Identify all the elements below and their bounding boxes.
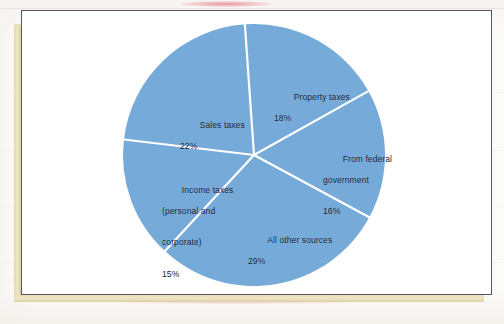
slice-label-percent: 22% <box>180 141 245 152</box>
slice-label-text: Income taxes <box>182 185 234 195</box>
page-edge-bottom <box>14 295 484 302</box>
slice-label-text: Property taxes <box>294 92 350 102</box>
scan-line <box>0 8 504 9</box>
page-edge-left <box>14 26 21 302</box>
slice-label-sales-taxes: Sales taxes 22% <box>180 109 245 172</box>
slice-label-property-taxes: Property taxes 18% <box>274 81 350 144</box>
slice-label-text: Sales taxes <box>200 120 245 130</box>
pie-chart: Property taxes 18% From federal governme… <box>22 11 491 294</box>
slice-label-text: (personal and <box>162 206 233 217</box>
slice-label-percent: 16% <box>323 206 392 217</box>
slice-label-percent: 29% <box>248 256 332 267</box>
slice-label-text: From federal <box>343 154 392 164</box>
slice-label-percent: 15% <box>162 269 233 280</box>
slice-label-percent: 18% <box>274 113 350 124</box>
slice-label-from-federal-government: From federal government 16% <box>323 143 392 238</box>
slice-label-text: government <box>323 175 392 186</box>
slice-label-text: corporate) <box>162 237 233 248</box>
highlighter-smudge <box>180 1 272 7</box>
chart-frame: Property taxes 18% From federal governme… <box>21 10 492 295</box>
slice-label-income-taxes: Income taxes (personal and corporate) 15… <box>162 174 233 294</box>
scanned-page: Property taxes 18% From federal governme… <box>0 0 504 324</box>
slice-label-text: All other sources <box>267 235 332 245</box>
slice-label-all-other-sources: All other sources 29% <box>248 224 332 287</box>
